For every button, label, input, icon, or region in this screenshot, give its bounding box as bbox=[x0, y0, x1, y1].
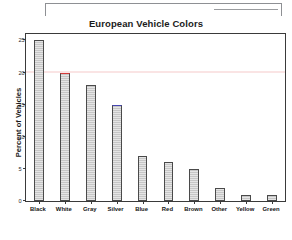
bar-black[interactable] bbox=[34, 40, 44, 201]
window-chrome bbox=[0, 0, 292, 18]
x-axis-tick-label-gray: Gray bbox=[83, 206, 96, 212]
x-axis-tick-label-other: Other bbox=[211, 206, 227, 212]
y-axis-tick bbox=[23, 200, 26, 201]
bar-red[interactable] bbox=[164, 162, 174, 201]
bar-gray[interactable] bbox=[86, 85, 96, 201]
y-axis-tick-label: 10 bbox=[19, 134, 22, 140]
y-axis-tick-label: 0 bbox=[19, 198, 22, 204]
bar-silver[interactable] bbox=[112, 105, 122, 201]
bar-white[interactable] bbox=[60, 73, 70, 201]
bar-blue[interactable] bbox=[138, 156, 148, 201]
plot-frame: 0510152025 bbox=[25, 33, 286, 202]
bar-other[interactable] bbox=[215, 188, 225, 201]
y-axis-tick-label: 25 bbox=[19, 37, 22, 43]
y-axis-tick-label: 20 bbox=[19, 70, 22, 76]
x-axis-tick-label-yellow: Yellow bbox=[236, 206, 254, 212]
y-axis-title: Percent of Vehicles bbox=[14, 63, 23, 183]
chart-title: European Vehicle Colors bbox=[0, 18, 292, 29]
x-axis-tick-label-black: Black bbox=[30, 206, 46, 212]
x-axis-tick-label-red: Red bbox=[162, 206, 173, 212]
y-axis-tick bbox=[23, 168, 26, 169]
chart-figure: European Vehicle Colors Percent of Vehic… bbox=[0, 18, 292, 240]
x-axis-tick-label-white: White bbox=[56, 206, 72, 212]
x-axis-tick-labels: BlackWhiteGraySilverBlueRedBrownOtherYel… bbox=[25, 204, 286, 220]
toolbar-bracket-secondary-icon bbox=[214, 9, 278, 16]
x-axis-tick-label-green: Green bbox=[263, 206, 280, 212]
y-axis-tick-label: 5 bbox=[19, 166, 22, 172]
x-axis-tick-label-brown: Brown bbox=[184, 206, 202, 212]
y-axis-tick-label: 15 bbox=[19, 102, 22, 108]
plot-area: 0510152025 bbox=[26, 34, 285, 201]
x-axis-tick-label-blue: Blue bbox=[135, 206, 148, 212]
x-axis-tick-label-silver: Silver bbox=[108, 206, 124, 212]
bar-brown[interactable] bbox=[189, 169, 199, 201]
